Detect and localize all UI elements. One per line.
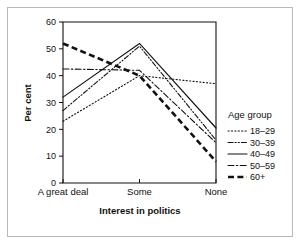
- y-axis-title: Per cent: [22, 83, 33, 121]
- x-axis-label-1: Some: [127, 186, 152, 197]
- chart-figure: 0102030405060 A great dealSomeNone Per c…: [0, 0, 300, 244]
- legend-label-60+: 60+: [250, 172, 265, 182]
- chart-legend: Age group 18–2930–3940–4950–5960+: [228, 109, 275, 182]
- x-axis-label-2: None: [205, 186, 228, 197]
- x-axis-category-labels: A great dealSomeNone: [38, 186, 228, 197]
- data-series-group: [63, 43, 216, 161]
- y-tick-label-60: 60: [46, 17, 56, 27]
- y-tick-label-50: 50: [46, 44, 56, 54]
- legend-entries: 18–2930–3940–4950–5960+: [228, 126, 275, 182]
- series-line-40–49: [63, 43, 216, 128]
- x-axis-title: Interest in politics: [99, 205, 180, 216]
- y-tick-label-30: 30: [46, 98, 56, 108]
- legend-label-30–39: 30–39: [250, 138, 275, 148]
- legend-title: Age group: [228, 109, 272, 120]
- legend-label-40–49: 40–49: [250, 149, 275, 159]
- legend-label-50–59: 50–59: [250, 161, 275, 171]
- series-line-30–39: [63, 46, 216, 140]
- x-axis-ticks: [63, 179, 216, 183]
- y-tick-label-10: 10: [46, 151, 56, 161]
- y-tick-label-40: 40: [46, 71, 56, 81]
- series-line-18–29: [63, 76, 216, 122]
- line-chart: 0102030405060 A great dealSomeNone Per c…: [0, 0, 300, 244]
- legend-label-18–29: 18–29: [250, 126, 275, 136]
- x-axis-label-0: A great deal: [38, 186, 89, 197]
- y-axis: 0102030405060: [46, 17, 63, 188]
- series-line-50–59: [63, 69, 216, 143]
- y-tick-label-20: 20: [46, 125, 56, 135]
